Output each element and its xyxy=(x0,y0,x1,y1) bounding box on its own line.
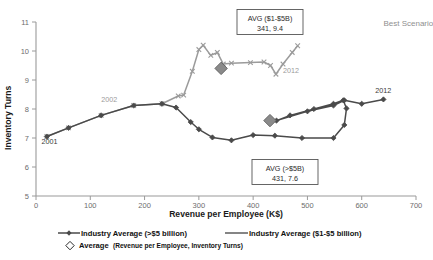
year-end-light: 2012 xyxy=(283,66,299,75)
legend-diamond-marker-over-5b xyxy=(66,230,71,236)
avg-over-5b-callout: AVG (>$5B)431, 7.6 xyxy=(252,160,318,185)
data-point-marker xyxy=(295,43,300,48)
series-light xyxy=(45,43,300,139)
y-tick-label: 6 xyxy=(25,163,29,172)
legend-item-1-5b[interactable]: Industry Average ($1-$5 billion) xyxy=(225,229,362,238)
avg-1-5b-callout: AVG ($1-$5B)341, 9.4 xyxy=(237,10,303,35)
legend-label-over-5b: Industry Average (>$5 billion) xyxy=(81,229,187,238)
year-start-dark: 2001 xyxy=(41,137,57,146)
data-point-marker xyxy=(359,101,364,106)
callout-line-2: 341, 9.4 xyxy=(257,24,283,33)
x-axis-title: Revenue per Employee (K$) xyxy=(169,209,283,219)
series-layer xyxy=(44,43,386,143)
y-tick-label: 11 xyxy=(21,18,29,27)
legend-sublabel-average: (Revenue per Employee, Inventory Turns) xyxy=(113,242,243,250)
legend-item-average[interactable]: Average (Revenue per Employee, Inventory… xyxy=(66,241,243,250)
data-point-marker xyxy=(272,133,277,138)
data-point-marker xyxy=(274,72,279,77)
legend-diamond-outline-icon xyxy=(66,241,74,249)
avg-marker-over-5b xyxy=(264,114,276,126)
callout-line-1: AVG (>$5B) xyxy=(266,164,304,173)
y-axis-title: Inventory Turns xyxy=(3,85,13,150)
annotation-layer: Best Scenario2002201220012012 xyxy=(41,19,433,146)
data-point-marker xyxy=(381,97,386,102)
x-tick-label: 600 xyxy=(355,201,368,210)
data-point-marker xyxy=(201,43,206,48)
x-tick-label: 200 xyxy=(138,201,151,210)
year-start-light: 2002 xyxy=(101,95,117,104)
legend: Industry Average (>$5 billion) Industry … xyxy=(58,229,362,251)
y-tick-label: 10 xyxy=(21,47,29,56)
average-markers-layer xyxy=(215,62,276,127)
callout-layer: AVG ($1-$5B)341, 9.4AVG (>$5B)431, 7.6 xyxy=(237,10,318,185)
data-point-marker xyxy=(229,138,234,143)
inventory-turns-scatter-line-chart: 567891011 0100200300400500600700 Invento… xyxy=(0,0,433,260)
data-point-marker xyxy=(268,63,273,68)
year-end-dark: 2012 xyxy=(375,86,391,95)
y-axis-ticks: 567891011 xyxy=(21,18,36,201)
x-axis-ticks: 0100200300400500600700 xyxy=(34,196,422,210)
legend-label-1-5b: Industry Average ($1-$5 billion) xyxy=(249,229,362,238)
x-tick-label: 700 xyxy=(410,201,423,210)
x-tick-label: 500 xyxy=(301,201,314,210)
legend-item-over-5b[interactable]: Industry Average (>$5 billion) xyxy=(58,229,187,238)
y-tick-label: 7 xyxy=(25,134,29,143)
series-dark xyxy=(44,97,386,143)
data-point-marker xyxy=(290,50,295,55)
data-point-marker xyxy=(251,133,256,138)
data-point-marker xyxy=(344,106,349,111)
y-tick-label: 9 xyxy=(25,76,29,85)
data-point-marker xyxy=(299,135,304,140)
series-line xyxy=(47,45,298,136)
callout-line-2: 431, 7.6 xyxy=(272,174,298,183)
scenario-note: Best Scenario xyxy=(383,19,433,28)
y-tick-label: 8 xyxy=(25,105,29,114)
legend-label-average: Average xyxy=(79,241,109,250)
x-tick-label: 100 xyxy=(84,201,97,210)
chart-container: 567891011 0100200300400500600700 Invento… xyxy=(0,0,433,260)
y-tick-label: 5 xyxy=(25,192,29,201)
x-tick-label: 0 xyxy=(34,201,38,210)
callout-line-1: AVG ($1-$5B) xyxy=(248,14,293,23)
